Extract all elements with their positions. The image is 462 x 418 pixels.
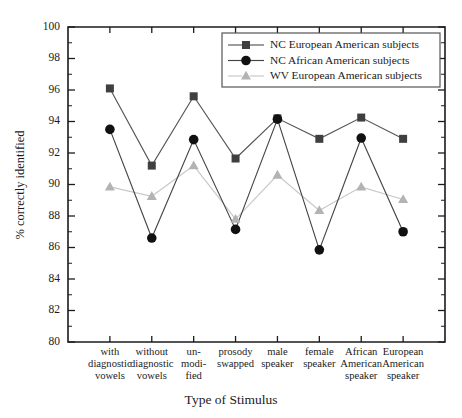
x-tick-label: with [100, 346, 120, 357]
line-chart: 80828486889092949698100 withdiagnosticvo… [0, 0, 462, 418]
marker-square-1-6 [357, 114, 365, 122]
x-tick-label: American [382, 358, 424, 369]
legend-label-1: NC European American subjects [270, 38, 420, 50]
marker-square-1-5 [315, 135, 323, 143]
y-tick-label: 96 [49, 83, 61, 95]
marker-circle-2-0 [105, 125, 115, 135]
x-tick-label: un- [187, 346, 202, 357]
x-tick-label: European [383, 346, 424, 357]
marker-circle-2-7 [398, 227, 408, 237]
marker-circle-legend-2 [241, 56, 251, 66]
x-tick-label: female [305, 346, 334, 357]
chart-container: 80828486889092949698100 withdiagnosticvo… [0, 0, 462, 418]
marker-circle-2-6 [356, 133, 366, 143]
x-tick-label: American [340, 358, 382, 369]
legend-label-3: WV European American subjects [270, 69, 422, 81]
x-tick-label: speaker [345, 370, 378, 381]
marker-square-legend-1 [242, 41, 250, 49]
y-axis-title: % correctly identified [13, 130, 27, 240]
marker-square-1-1 [148, 162, 156, 170]
x-tick-label: vowels [95, 370, 125, 381]
y-tick-label: 82 [49, 303, 61, 315]
x-tick-label: speaker [261, 358, 294, 369]
x-tick-label: speaker [303, 358, 336, 369]
chart-legend[interactable]: NC European American subjectsNC African … [222, 33, 440, 87]
marker-square-1-7 [399, 135, 407, 143]
legend-label-2: NC African American subjects [270, 54, 410, 66]
x-tick-label: without [136, 346, 168, 357]
x-tick-label: vowels [137, 370, 167, 381]
marker-circle-2-2 [189, 135, 199, 145]
y-tick-label: 100 [43, 20, 61, 32]
marker-circle-2-5 [315, 245, 325, 255]
marker-square-1-2 [190, 92, 198, 100]
x-tick-label: fied [185, 370, 202, 381]
y-tick-label: 84 [49, 272, 61, 284]
y-tick-label: 94 [49, 114, 61, 126]
y-tick-label: 86 [49, 240, 61, 252]
y-tick-label: 88 [49, 209, 61, 221]
x-axis-title: Type of Stimulus [185, 392, 278, 407]
x-tick-label: prosody [218, 346, 253, 357]
marker-square-1-3 [232, 155, 240, 163]
y-tick-label: 90 [49, 177, 61, 189]
x-tick-label: diagnostic [88, 358, 132, 369]
marker-square-1-0 [106, 84, 114, 92]
x-tick-label: speaker [387, 370, 420, 381]
y-tick-label: 98 [49, 51, 61, 63]
x-tick-label: diagnostic [130, 358, 174, 369]
y-tick-label: 80 [49, 335, 61, 347]
x-tick-label: male [267, 346, 288, 357]
y-tick-label: 92 [49, 146, 61, 158]
marker-circle-2-3 [231, 225, 241, 235]
marker-circle-2-4 [273, 114, 283, 124]
marker-circle-2-1 [147, 233, 157, 243]
x-tick-label: African [345, 346, 378, 357]
x-tick-label: modi- [181, 358, 207, 369]
x-tick-label: swapped [217, 358, 255, 369]
